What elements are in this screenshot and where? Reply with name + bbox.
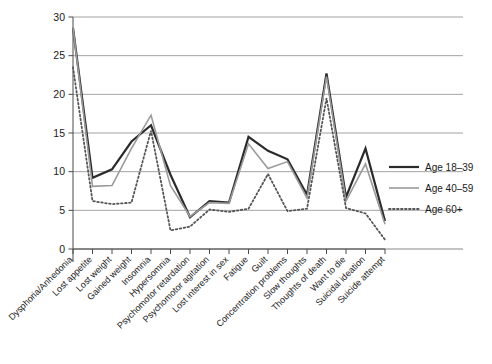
legend-label-2: Age 60+ — [425, 204, 463, 215]
x-axis-category-labels: Dysphoria/AnhedoniaLost appetiteLost wei… — [6, 254, 386, 331]
y-tick-label-25: 25 — [53, 49, 65, 61]
y-tick-label-0: 0 — [59, 243, 65, 255]
chart-container: 051015202530 Dysphoria/AnhedoniaLost app… — [0, 0, 492, 364]
data-series — [73, 28, 385, 240]
y-tick-label-10: 10 — [53, 165, 65, 177]
gridlines — [73, 17, 463, 249]
y-tick-label-20: 20 — [53, 88, 65, 100]
y-tick-label-30: 30 — [53, 11, 65, 23]
x-axis — [73, 249, 385, 254]
chart-legend: Age 18–39Age 40–59Age 60+ — [389, 162, 474, 215]
series-line-1 — [73, 28, 385, 224]
y-tick-label-5: 5 — [59, 204, 65, 216]
legend-label-1: Age 40–59 — [425, 183, 474, 194]
line-chart: 051015202530 Dysphoria/AnhedoniaLost app… — [0, 0, 492, 364]
series-line-0 — [73, 28, 385, 221]
legend-label-0: Age 18–39 — [425, 162, 474, 173]
y-tick-label-15: 15 — [53, 127, 65, 139]
y-axis: 051015202530 — [53, 11, 73, 262]
